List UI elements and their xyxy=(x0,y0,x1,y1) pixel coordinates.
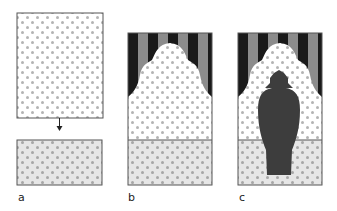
panel-label-c: c xyxy=(239,192,245,203)
figure-canvas xyxy=(0,0,337,211)
panel-label-a: a xyxy=(18,192,25,203)
panel-c xyxy=(238,33,322,185)
panel-a xyxy=(17,13,103,185)
floor-area xyxy=(128,140,212,185)
wall-rectangle xyxy=(17,13,103,118)
panel-b xyxy=(128,33,212,185)
floor-rectangle xyxy=(17,140,102,185)
panel-label-b: b xyxy=(128,192,135,203)
arrow-down-icon xyxy=(57,126,63,131)
